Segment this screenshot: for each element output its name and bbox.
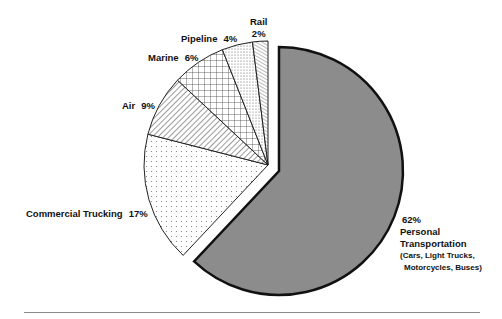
label-personal-pct: 62% (402, 214, 482, 226)
label-rail-name: Rail (250, 16, 267, 28)
label-personal-transportation: 62% Personal Transportation (Cars, Light… (400, 214, 482, 274)
label-commercial-trucking: Commercial Trucking17% (26, 208, 148, 220)
label-air-name: Air (122, 100, 135, 111)
label-commercial-pct: 17% (129, 208, 148, 219)
label-personal-line2: Transportation (400, 238, 482, 250)
label-marine: Marine6% (148, 52, 198, 64)
horizontal-rule (24, 312, 480, 313)
label-rail: Rail 2% (250, 16, 267, 40)
label-air-pct: 9% (141, 100, 155, 111)
label-rail-pct: 2% (250, 28, 267, 40)
label-commercial-name: Commercial Trucking (26, 208, 123, 219)
label-pipeline-name: Pipeline (181, 33, 217, 44)
label-pipeline: Pipeline4% (181, 33, 237, 45)
label-air: Air9% (122, 100, 155, 112)
label-pipeline-pct: 4% (223, 33, 237, 44)
label-personal-line4: Motorcycles, Buses) (404, 262, 482, 274)
label-personal-line1: Personal (400, 226, 482, 238)
label-personal-line3: (Cars, Light Trucks, (400, 250, 482, 262)
label-marine-pct: 6% (185, 52, 199, 63)
label-marine-name: Marine (148, 52, 179, 63)
